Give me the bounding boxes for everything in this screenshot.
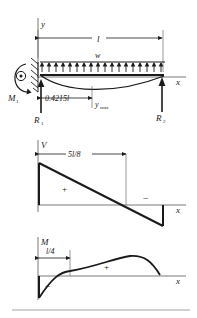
moment-diagram-group: M x l/4 − + bbox=[38, 237, 186, 300]
distributed-load-label: w bbox=[95, 51, 101, 60]
x-axis-label-load: x bbox=[175, 77, 180, 87]
reaction-right-subscript: 2 bbox=[163, 119, 166, 124]
reaction-left-arrow bbox=[38, 79, 45, 113]
moment-curve bbox=[39, 256, 160, 298]
x-axis-label-shear: x bbox=[175, 205, 180, 215]
shear-negative-sign: − bbox=[143, 193, 149, 204]
distributed-load-arrows bbox=[40, 62, 164, 72]
shear-diagram-group: V x 5l/8 + − bbox=[38, 140, 186, 226]
moment-parabola bbox=[39, 256, 160, 298]
shear-zero-dimension: 5l/8 bbox=[39, 148, 126, 205]
shear-positive-sign: + bbox=[62, 184, 67, 194]
fixed-support-hatching bbox=[31, 58, 38, 92]
moment-reaction-subscript: 1 bbox=[16, 99, 19, 104]
load-diagram-group: y l w bbox=[7, 18, 186, 126]
moment-reaction-symbol bbox=[15, 64, 32, 95]
reaction-left-label: R bbox=[33, 115, 40, 125]
max-deflection-label: y bbox=[94, 100, 99, 109]
moment-dot-icon bbox=[20, 75, 23, 78]
reaction-right-label: R bbox=[155, 113, 162, 123]
x-axis-label-moment: x bbox=[175, 276, 180, 286]
beam-diagram-svg: y l w bbox=[0, 0, 197, 318]
deflection-location-label: 0.4215l bbox=[45, 94, 70, 103]
reaction-right-arrow bbox=[159, 77, 166, 112]
moment-inflection-label: l/4 bbox=[46, 247, 54, 256]
reaction-left-subscript: 1 bbox=[41, 121, 44, 126]
beam-diagram-figure: y l w bbox=[0, 0, 197, 318]
moment-axis-label: M bbox=[40, 237, 49, 247]
max-deflection-subscript: max bbox=[100, 105, 109, 110]
shear-axis-label: V bbox=[41, 140, 48, 150]
moment-negative-sign: − bbox=[45, 281, 51, 292]
y-axis-label: y bbox=[40, 19, 45, 29]
shear-zero-crossing-label: 5l/8 bbox=[68, 150, 80, 159]
moment-reaction-label: M bbox=[7, 93, 16, 103]
moment-positive-sign: + bbox=[104, 262, 109, 272]
